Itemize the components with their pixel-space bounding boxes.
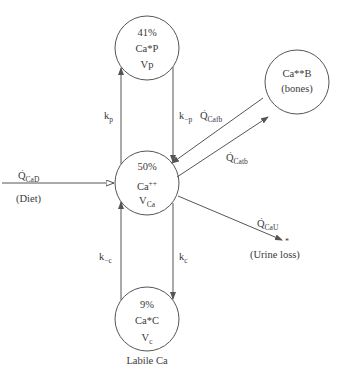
label-kp: kp (104, 110, 113, 126)
label-k-minus-c: k−c (99, 251, 112, 267)
q-cad-sub: CaD (26, 175, 40, 184)
ionized-volume: VCa (139, 195, 155, 211)
label-q-cad: ·QCaD (18, 170, 39, 186)
label-q-cafb: ·QCafb (200, 110, 222, 126)
plasma-bound-percent: 41% (137, 27, 156, 39)
bones-name: Ca**B (282, 68, 311, 80)
cellular-volume-sub: c (149, 337, 152, 346)
urine-sink-marker: * (285, 236, 289, 248)
ionized-name-base: Ca (137, 181, 149, 192)
ionized-name-sup: ++ (149, 179, 157, 188)
ionized-name: Ca++ (137, 178, 157, 193)
ionized-volume-sub: Ca (147, 200, 155, 209)
label-q-catb: ·QCatb (226, 152, 248, 168)
compartment-bones (265, 50, 329, 114)
ionized-percent: 50% (137, 161, 156, 173)
ionized-volume-base: V (139, 195, 147, 206)
cellular-name: Ca*C (135, 315, 159, 327)
arrow-q-cafb (172, 98, 263, 163)
bones-subtitle: (bones) (281, 83, 313, 95)
q-cau-sub: CaU (265, 223, 279, 232)
label-k-minus-p: k−p (179, 110, 192, 126)
plasma-bound-volume: Vp (141, 59, 154, 71)
q-cau-dot: · (260, 212, 263, 224)
label-urine-loss: (Urine loss) (250, 249, 300, 261)
arrow-q-catb (177, 117, 268, 177)
caption-labile-ca: Labile Ca (126, 355, 167, 367)
plasma-bound-name: Ca*P (136, 43, 159, 55)
kc-sub: c (184, 256, 187, 265)
label-kc: kc (179, 251, 188, 267)
q-cad-dot: · (21, 164, 24, 176)
q-catb-dot: · (229, 146, 232, 158)
label-diet: (Diet) (16, 193, 41, 205)
cellular-percent: 9% (140, 299, 154, 311)
q-cafb-dot: · (203, 104, 206, 116)
k-minus-p-sub: −p (184, 115, 192, 124)
q-cafb-sub: Cafb (208, 115, 223, 124)
kp-sub: p (109, 115, 113, 124)
cellular-volume: Vc (142, 332, 153, 348)
k-minus-c-sub: −c (104, 256, 112, 265)
label-q-cau: ·QCaU (257, 218, 278, 234)
cellular-volume-base: V (142, 332, 150, 343)
q-catb-sub: Catb (234, 157, 248, 166)
diagram-canvas (0, 0, 340, 380)
